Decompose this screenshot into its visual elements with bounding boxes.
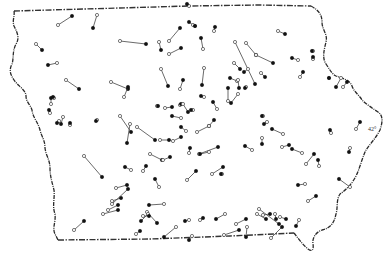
displacement-segment [327, 76, 330, 79]
open-circle-marker [95, 13, 98, 16]
filled-circle-marker [283, 32, 286, 35]
filled-circle-marker [268, 212, 271, 215]
segment-line [169, 28, 180, 41]
segment-line [161, 69, 168, 86]
displacement-segment [226, 86, 229, 102]
filled-circle-marker [310, 49, 313, 52]
open-circle-marker [300, 151, 303, 154]
filled-circle-marker [213, 25, 216, 28]
filled-circle-marker [199, 94, 202, 97]
open-circle-marker [110, 202, 113, 205]
displacement-segment [141, 164, 147, 172]
open-circle-marker [303, 182, 306, 185]
open-circle-marker [179, 116, 182, 119]
open-circle-marker [278, 215, 281, 218]
filled-circle-marker [178, 26, 181, 29]
displacement-segment [200, 66, 205, 86]
displacement-segment [316, 158, 320, 167]
filled-circle-marker [277, 222, 280, 225]
open-circle-marker [158, 138, 161, 141]
filled-circle-marker [194, 169, 197, 172]
filled-circle-marker [138, 229, 141, 232]
displacement-segment [243, 85, 247, 89]
displacement-segment [72, 219, 85, 231]
filled-circle-marker [155, 221, 158, 224]
open-circle-marker [157, 185, 160, 188]
displacement-segment [207, 118, 215, 127]
displacement-segment [181, 102, 189, 113]
open-circle-marker [101, 212, 104, 215]
open-circle-marker [234, 222, 237, 225]
filled-circle-marker [167, 138, 170, 141]
displacement-segment [232, 61, 241, 70]
open-circle-marker [61, 115, 64, 118]
displacement-segment [185, 2, 190, 7]
displacement-segment [243, 144, 253, 151]
filled-circle-marker [166, 84, 169, 87]
segment-line [235, 42, 255, 84]
displacement-segment [179, 125, 187, 132]
segment-line [271, 227, 282, 238]
filled-circle-marker [70, 14, 73, 17]
open-circle-marker [232, 61, 235, 64]
displacement-segment [234, 217, 247, 225]
filled-circle-marker [284, 217, 287, 220]
open-circle-marker [260, 136, 263, 139]
filled-circle-marker [170, 105, 173, 108]
filled-circle-marker [40, 48, 43, 51]
displacement-segment [278, 215, 287, 220]
open-circle-marker [257, 207, 260, 210]
open-circle-marker [161, 158, 164, 161]
open-circle-marker [201, 47, 204, 50]
open-circle-marker [134, 232, 137, 235]
displacement-segment [262, 120, 268, 125]
displacement-segment [219, 172, 223, 175]
open-circle-marker [171, 139, 174, 142]
displacement-segment [109, 80, 129, 90]
displacement-segment [270, 127, 284, 135]
filled-circle-marker [153, 177, 156, 180]
west-border [10, 11, 58, 240]
filled-circle-marker [243, 86, 246, 89]
filled-circle-marker [228, 76, 231, 79]
open-circle-marker [106, 208, 109, 211]
open-circle-marker [198, 218, 201, 221]
filled-circle-marker [51, 95, 54, 98]
displacement-segment [236, 78, 240, 89]
displacement-segment [311, 55, 314, 60]
open-circle-marker [202, 66, 205, 69]
filled-circle-marker [186, 110, 189, 113]
filled-circle-marker [179, 135, 182, 138]
segment-line [84, 156, 102, 177]
displacement-segment [94, 118, 98, 122]
filled-circle-marker [260, 142, 263, 145]
displacement-segment [161, 155, 171, 161]
displacement-segment [244, 225, 248, 238]
east-border [311, 6, 382, 218]
filled-circle-marker [156, 104, 159, 107]
filled-circle-marker [126, 85, 129, 88]
filled-circle-marker [219, 172, 222, 175]
displacement-segment [294, 218, 300, 227]
displacement-segment [242, 67, 249, 73]
filled-circle-marker [187, 20, 190, 23]
displacement-segment [158, 138, 170, 141]
filled-circle-marker [94, 119, 97, 122]
filled-circle-marker [270, 127, 273, 130]
filled-circle-marker [334, 85, 337, 88]
open-circle-marker [236, 78, 239, 81]
displacement-segment [134, 229, 141, 235]
open-circle-marker [34, 42, 37, 45]
filled-circle-marker [212, 118, 215, 121]
displacement-segment [159, 67, 169, 87]
displacement-segment [260, 136, 263, 145]
filled-circle-marker [159, 48, 162, 51]
displacement-segment [296, 182, 306, 186]
segment-line [66, 80, 79, 89]
displacement-segment [167, 26, 181, 42]
filled-circle-marker [226, 86, 229, 89]
filled-circle-marker [290, 56, 293, 59]
filled-circle-marker [125, 141, 128, 144]
open-circle-marker [317, 164, 320, 167]
filled-circle-marker [185, 2, 188, 5]
